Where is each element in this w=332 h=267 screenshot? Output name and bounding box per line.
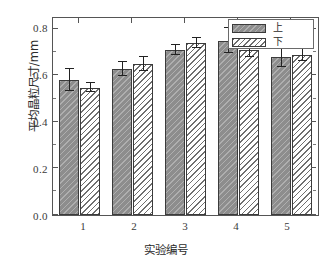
bar-上-1 [59,80,79,215]
y-tick-mark [53,121,58,122]
legend-label-up: 上 [273,23,283,33]
error-bar-cap-lower [245,56,254,57]
y-tick-label-4: 0.8 [8,22,48,34]
error-bar-cap-upper [171,44,180,45]
legend-swatch-up-icon [232,24,266,33]
error-bar-cap-lower [65,90,74,91]
x-tick-label-4: 5 [267,220,307,232]
error-bar-cap-upper [192,37,201,38]
error-bar-cap-upper [65,68,74,69]
error-bar-cap-upper [139,56,148,57]
x-tick-mark [131,18,132,23]
bar-下-3 [186,43,206,215]
error-bar-line [69,69,70,91]
y-tick-mark [53,74,58,75]
error-bar-cap-lower [277,66,286,67]
y-minor-tick-mark [53,144,56,145]
error-bar-cap-lower [224,52,233,53]
legend-item-down: 下 [232,36,310,48]
bar-下-5 [292,55,312,215]
error-bar-cap-lower [86,91,95,92]
bar-chart: 平均晶粒尺寸/mm 实验编号 0.0 0.2 0.4 0.6 0.8 1 2 3… [0,0,332,267]
error-bar-cap-lower [171,54,180,55]
bar-上-2 [112,69,132,215]
x-tick-mark [184,208,185,213]
y-minor-tick-mark [53,190,56,191]
x-tick-mark [78,208,79,213]
x-tick-label-2: 3 [165,220,205,232]
y-tick-mark [311,121,316,122]
y-tick-mark [53,214,58,215]
y-tick-label-1: 0.2 [8,163,48,175]
y-minor-tick-mark [313,98,316,99]
error-bar-line [122,62,123,75]
x-tick-mark [237,208,238,213]
x-tick-label-0: 1 [63,220,103,232]
error-bar-cap-lower [118,75,127,76]
y-tick-mark [53,167,58,168]
y-tick-mark [53,28,58,29]
error-bar-cap-upper [86,82,95,83]
y-minor-tick-mark [313,190,316,191]
y-minor-tick-mark [313,51,316,52]
legend-item-up: 上 [232,22,310,34]
y-minor-tick-mark [53,98,56,99]
y-tick-label-2: 0.4 [8,116,48,128]
y-minor-tick-mark [53,51,56,52]
x-tick-mark [131,208,132,213]
y-tick-mark [311,214,316,215]
bar-下-4 [239,50,259,215]
legend-swatch-down-icon [232,38,266,47]
y-tick-label-3: 0.6 [8,69,48,81]
x-tick-mark [184,18,185,23]
bar-上-3 [165,50,185,215]
error-bar-line [143,57,144,71]
bar-上-5 [271,57,291,215]
x-tick-mark [78,18,79,23]
error-bar-cap-upper [118,61,127,62]
x-tick-label-3: 4 [216,220,256,232]
error-bar-cap-lower [139,70,148,71]
y-tick-mark [311,167,316,168]
bar-上-4 [218,41,238,215]
error-bar-line [281,47,282,66]
y-tick-label-0: 0.0 [8,210,48,222]
legend-label-down: 下 [273,37,283,47]
y-minor-tick-mark [313,144,316,145]
x-axis-title: 实验编号 [0,241,332,257]
bar-下-2 [133,64,153,215]
error-bar-cap-lower [192,47,201,48]
x-tick-mark [290,208,291,213]
x-tick-label-1: 2 [114,220,154,232]
bar-下-1 [80,88,100,215]
legend: 上 下 [228,19,314,49]
y-tick-mark [311,74,316,75]
error-bar-cap-lower [298,60,307,61]
